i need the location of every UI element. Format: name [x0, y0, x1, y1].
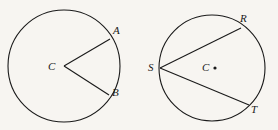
right-circle-outline: [159, 15, 265, 121]
left-circle-point-a-label: A: [113, 25, 120, 36]
right-circle-point-t-label: T: [251, 104, 257, 115]
right-circle-chord-SR: [160, 28, 241, 68]
left-circle-radius-CA: [64, 39, 110, 66]
geometry-canvas: [0, 0, 278, 130]
right-circle-chord-ST: [160, 68, 249, 105]
left-circle-center-label: C: [48, 61, 55, 72]
right-circle-point-s-label: S: [148, 62, 154, 73]
left-circle-radius-CB: [64, 66, 109, 95]
right-circle-point-r-label: R: [240, 13, 247, 24]
right-circle-center-label: C: [202, 62, 209, 73]
right-circle-center-dot: [213, 66, 216, 69]
geometry-figure: C A B C R S T: [0, 0, 278, 130]
left-circle-point-b-label: B: [112, 87, 119, 98]
